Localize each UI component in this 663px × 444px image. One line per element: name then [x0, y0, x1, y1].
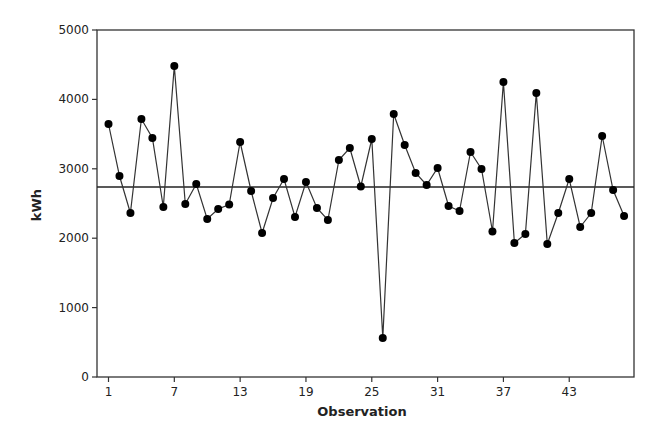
- data-point-marker: [324, 216, 332, 224]
- data-point-marker: [192, 180, 200, 188]
- data-point-marker: [105, 120, 113, 128]
- data-point-marker: [467, 148, 475, 156]
- data-point-marker: [598, 132, 606, 140]
- data-point-marker: [247, 187, 255, 195]
- data-point-marker: [302, 178, 310, 186]
- x-tick-label: 25: [364, 385, 379, 399]
- y-tick-label: 3000: [58, 162, 89, 176]
- data-point-marker: [269, 194, 277, 202]
- data-point-marker: [401, 141, 409, 149]
- y-axis-title: kWh: [29, 189, 44, 221]
- data-point-marker: [280, 175, 288, 183]
- data-point-marker: [477, 165, 485, 173]
- data-point-marker: [609, 186, 617, 194]
- data-point-marker: [456, 207, 464, 215]
- data-point-marker: [225, 201, 233, 209]
- plot-frame: [97, 30, 634, 377]
- y-tick-label: 5000: [58, 23, 89, 37]
- data-point-marker: [499, 78, 507, 86]
- data-point-marker: [203, 215, 211, 223]
- x-tick-label: 43: [562, 385, 577, 399]
- data-point-marker: [357, 182, 365, 190]
- x-tick-label: 7: [170, 385, 178, 399]
- data-point-marker: [126, 209, 134, 217]
- data-point-marker: [488, 227, 496, 235]
- data-point-marker: [291, 213, 299, 221]
- data-point-marker: [346, 144, 354, 152]
- y-tick-label: 1000: [58, 301, 89, 315]
- data-point-marker: [543, 240, 551, 248]
- data-point-marker: [148, 134, 156, 142]
- data-point-marker: [532, 89, 540, 97]
- data-point-marker: [554, 209, 562, 217]
- data-point-marker: [412, 169, 420, 177]
- x-tick-label: 37: [496, 385, 511, 399]
- data-point-marker: [576, 223, 584, 231]
- x-tick-label: 19: [298, 385, 313, 399]
- y-tick-label: 2000: [58, 231, 89, 245]
- y-axis: 010002000300040005000: [58, 23, 97, 384]
- data-point-marker: [313, 204, 321, 212]
- run-chart: 010002000300040005000 17131925313743 Obs…: [0, 0, 663, 444]
- data-point-marker: [445, 202, 453, 210]
- data-point-marker: [587, 209, 595, 217]
- data-markers: [105, 62, 629, 342]
- data-point-marker: [368, 135, 376, 143]
- chart-container: 010002000300040005000 17131925313743 Obs…: [0, 0, 663, 444]
- x-axis-title: Observation: [317, 404, 406, 419]
- data-point-marker: [390, 110, 398, 118]
- y-tick-label: 4000: [58, 92, 89, 106]
- data-point-marker: [510, 239, 518, 247]
- data-point-marker: [620, 212, 628, 220]
- data-point-marker: [214, 205, 222, 213]
- y-tick-label: 0: [81, 370, 89, 384]
- data-point-marker: [565, 175, 573, 183]
- data-point-marker: [335, 156, 343, 164]
- x-tick-label: 1: [105, 385, 113, 399]
- x-tick-label: 13: [232, 385, 247, 399]
- data-point-marker: [115, 172, 123, 180]
- data-point-marker: [434, 164, 442, 172]
- data-point-marker: [521, 230, 529, 238]
- x-tick-label: 31: [430, 385, 445, 399]
- data-point-marker: [423, 181, 431, 189]
- data-point-marker: [181, 200, 189, 208]
- data-point-marker: [258, 229, 266, 237]
- data-point-marker: [159, 203, 167, 211]
- data-point-marker: [236, 138, 244, 146]
- data-point-marker: [137, 115, 145, 123]
- data-point-marker: [170, 62, 178, 70]
- data-point-marker: [379, 334, 387, 342]
- x-axis: 17131925313743: [105, 377, 577, 399]
